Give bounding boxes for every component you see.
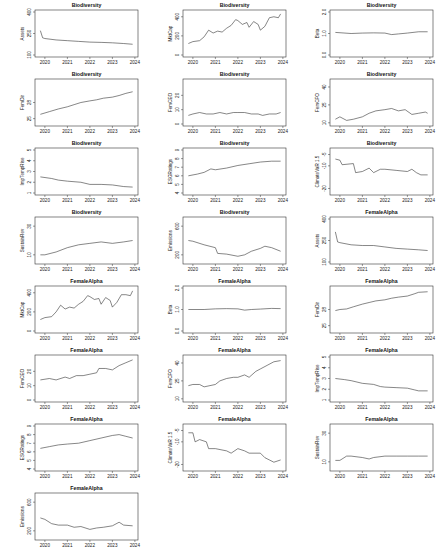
chart-panel-femalealpha-assets: FemaleAlpha20202021202220232024100250400… bbox=[295, 207, 443, 276]
x-tick-label: 2024 bbox=[278, 267, 289, 272]
x-tick-label: 2020 bbox=[335, 198, 346, 203]
y-axis-label: SustainRev bbox=[20, 228, 25, 252]
chart-title: Biodiversity bbox=[72, 71, 102, 77]
x-tick-label: 2021 bbox=[62, 129, 73, 134]
x-tick-label: 2021 bbox=[62, 474, 73, 479]
chart-title: FemaleAlpha bbox=[70, 278, 102, 284]
y-tick-label: 4 bbox=[322, 366, 327, 369]
x-tick-label: 2024 bbox=[130, 267, 141, 272]
y-tick-label: 7 bbox=[175, 165, 180, 168]
y-tick-label: 0 bbox=[175, 53, 180, 56]
y-tick-label: -5 bbox=[322, 152, 327, 157]
chart-panel-femalealpha-femdir: FemaleAlpha202020212022202320242528FemDi… bbox=[295, 276, 443, 345]
x-tick-label: 2020 bbox=[40, 129, 51, 134]
series-line bbox=[335, 32, 427, 35]
plot-frame bbox=[35, 148, 138, 195]
chart-title: Biodiversity bbox=[367, 71, 397, 77]
y-axis-label: SustainRev bbox=[315, 435, 320, 459]
x-tick-label: 2022 bbox=[233, 405, 244, 410]
chart-title: FemaleAlpha bbox=[365, 209, 397, 215]
chart-title: Biodiversity bbox=[367, 2, 397, 8]
x-tick-label: 2023 bbox=[402, 267, 413, 272]
y-axis-label: ClimateVaR 1.5 bbox=[315, 155, 320, 187]
x-tick-label: 2023 bbox=[107, 267, 118, 272]
y-tick-label: 7 bbox=[27, 441, 32, 444]
x-tick-label: 2023 bbox=[107, 198, 118, 203]
x-tick-label: 2023 bbox=[255, 60, 266, 65]
y-tick-label: 250 bbox=[322, 236, 327, 244]
x-tick-label: 2024 bbox=[425, 474, 436, 479]
x-tick-label: 2021 bbox=[210, 267, 221, 272]
x-tick-label: 2022 bbox=[233, 474, 244, 479]
y-tick-label: 3 bbox=[27, 170, 32, 173]
series-line bbox=[188, 161, 280, 176]
y-tick-label: 10 bbox=[322, 459, 327, 465]
y-tick-label: 1.0 bbox=[322, 30, 327, 37]
y-axis-label: ClimateVaR 1.5 bbox=[168, 431, 173, 463]
chart-panel-biodiversity-imptemprise: Biodiversity2020202120222023202412345Imp… bbox=[0, 138, 148, 207]
y-axis-label: FemDir bbox=[315, 302, 320, 318]
plot-frame bbox=[35, 493, 138, 540]
series-line bbox=[335, 292, 427, 311]
y-tick-label: 200 bbox=[175, 32, 180, 40]
y-tick-label: 0 bbox=[27, 329, 32, 332]
x-tick-label: 2024 bbox=[278, 405, 289, 410]
y-tick-label: 6 bbox=[175, 174, 180, 177]
y-axis-label: ImpTempRise bbox=[20, 157, 25, 186]
x-tick-label: 2022 bbox=[85, 405, 96, 410]
y-axis-label: MktCap bbox=[20, 301, 25, 317]
x-tick-label: 2023 bbox=[255, 405, 266, 410]
plot-frame bbox=[330, 355, 433, 402]
chart-panel-femalealpha-mktcap: FemaleAlpha202020212022202320240200400Mk… bbox=[0, 276, 148, 345]
y-tick-label: 28 bbox=[27, 100, 32, 106]
x-tick-label: 2022 bbox=[380, 129, 391, 134]
y-tick-label: 2.0 bbox=[322, 8, 327, 15]
x-tick-label: 2021 bbox=[357, 336, 368, 341]
y-tick-label: 30 bbox=[27, 223, 32, 229]
chart-panel-biodiversity-femdir: Biodiversity202020212022202320242528FemD… bbox=[0, 69, 148, 138]
x-tick-label: 2024 bbox=[130, 60, 141, 65]
x-tick-label: 2022 bbox=[85, 129, 96, 134]
plot-frame bbox=[35, 424, 138, 471]
y-tick-label: 3 bbox=[322, 377, 327, 380]
chart-panel-femalealpha-imptemprise: FemaleAlpha2020202120222023202412345ImpT… bbox=[295, 345, 443, 414]
plot-frame bbox=[183, 79, 286, 126]
x-tick-label: 2020 bbox=[188, 60, 199, 65]
chart-panel-biodiversity-climatevar-1-5: Biodiversity20202021202220232024-5-10-20… bbox=[295, 138, 443, 207]
y-tick-label: 9 bbox=[175, 148, 180, 151]
y-tick-label: -20 bbox=[175, 461, 180, 468]
x-tick-label: 2021 bbox=[357, 129, 368, 134]
x-tick-label: 2024 bbox=[425, 336, 436, 341]
x-tick-label: 2020 bbox=[188, 198, 199, 203]
x-tick-label: 2024 bbox=[130, 543, 141, 548]
x-tick-label: 2022 bbox=[233, 198, 244, 203]
x-tick-label: 2024 bbox=[130, 336, 141, 341]
plot-frame bbox=[330, 79, 433, 126]
chart-title: Biodiversity bbox=[220, 209, 250, 215]
y-axis-label: Emissions bbox=[20, 505, 25, 527]
y-tick-label: 1 bbox=[322, 398, 327, 401]
series-line bbox=[40, 92, 132, 115]
x-tick-label: 2020 bbox=[40, 543, 51, 548]
x-tick-label: 2021 bbox=[357, 474, 368, 479]
x-tick-label: 2020 bbox=[188, 336, 199, 341]
y-tick-label: 0.0 bbox=[175, 327, 180, 334]
x-tick-label: 2023 bbox=[107, 60, 118, 65]
y-tick-label: 10 bbox=[175, 396, 180, 402]
x-tick-label: 2024 bbox=[130, 129, 141, 134]
plot-frame bbox=[183, 148, 286, 195]
x-tick-label: 2021 bbox=[210, 474, 221, 479]
series-line bbox=[335, 159, 427, 175]
x-tick-label: 2023 bbox=[107, 129, 118, 134]
y-tick-label: 5 bbox=[27, 148, 32, 151]
y-tick-label: -5 bbox=[175, 428, 180, 433]
y-tick-label: 250 bbox=[27, 29, 32, 37]
x-tick-label: 2020 bbox=[335, 129, 346, 134]
y-tick-label: 9 bbox=[27, 424, 32, 427]
y-tick-label: 25 bbox=[27, 116, 32, 122]
y-axis-label: ESGRatings bbox=[20, 434, 25, 460]
chart-panel-femalealpha-beta: FemaleAlpha202020212022202320240.01.02.0… bbox=[148, 276, 296, 345]
x-tick-label: 2024 bbox=[130, 474, 141, 479]
series-line bbox=[188, 433, 280, 462]
x-tick-label: 2023 bbox=[107, 474, 118, 479]
